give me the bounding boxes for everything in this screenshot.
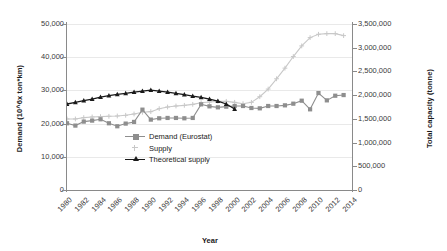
series-marker	[266, 104, 270, 108]
legend-label: Theoretical supply	[149, 155, 210, 164]
series-marker	[174, 104, 179, 109]
series-marker	[308, 107, 312, 111]
legend-swatch-icon	[125, 144, 145, 153]
series-marker	[148, 109, 153, 114]
series-marker	[67, 117, 69, 122]
y-tick-label-left: 30,000	[41, 85, 64, 95]
series-marker	[107, 121, 111, 125]
chart-legend: Demand (Eurostat)SupplyTheoretical suppl…	[125, 131, 212, 166]
series-marker	[98, 117, 102, 121]
y-tick-label-left: 20,000	[41, 119, 64, 129]
series-marker	[115, 124, 119, 128]
series-marker	[174, 116, 178, 120]
series-marker	[90, 119, 94, 123]
series-marker	[123, 113, 128, 118]
series-marker	[81, 115, 86, 120]
series-marker	[190, 102, 195, 107]
y-tick-mark-right	[353, 48, 357, 49]
series-marker	[274, 104, 278, 108]
chart-figure: Demand (10^6x ton*km) Total capacity (to…	[0, 0, 447, 251]
series-marker	[341, 33, 346, 38]
series-marker	[316, 32, 321, 37]
y-tick-label-left: 10,000	[41, 152, 64, 162]
series-marker	[249, 106, 253, 110]
series-marker	[149, 118, 153, 122]
legend-swatch-icon	[125, 155, 145, 164]
x-axis-line	[66, 190, 353, 191]
series-marker	[73, 117, 78, 122]
y-tick-mark-right	[353, 95, 357, 96]
y-tick-label-left: 40,000	[41, 52, 64, 62]
y-tick-label-right: 2,500,000	[358, 66, 391, 76]
series-marker	[216, 105, 220, 109]
y-tick-label-right: 1,000,000	[358, 138, 391, 148]
series-marker	[241, 104, 245, 108]
y-tick-label-right: 500,000	[358, 161, 385, 171]
series-marker	[157, 116, 161, 120]
y-tick-mark-left	[62, 90, 66, 91]
series-marker	[73, 123, 77, 127]
y-tick-mark-right	[353, 24, 357, 25]
series-marker	[199, 102, 203, 106]
series-marker	[182, 103, 187, 108]
y-tick-label-left: 50,000	[41, 19, 64, 29]
series-marker	[283, 103, 287, 107]
legend-item: Theoretical supply	[125, 154, 212, 165]
series-marker	[291, 102, 295, 106]
series-marker	[107, 114, 112, 119]
series-marker	[182, 116, 186, 120]
series-marker	[157, 106, 162, 111]
y-tick-mark-left	[62, 24, 66, 25]
series-marker	[165, 105, 170, 110]
y-tick-mark-left	[62, 190, 66, 191]
legend-label: Supply	[149, 144, 172, 153]
y-tick-mark-left	[62, 157, 66, 158]
series-marker	[325, 98, 329, 102]
y-tick-mark-right	[353, 71, 357, 72]
y-axis-label-right: Total capacity (tonne)	[425, 49, 434, 169]
series-marker	[165, 116, 169, 120]
legend-swatch-icon	[125, 132, 145, 141]
y-tick-label-right: 0	[358, 185, 362, 195]
series-marker	[82, 120, 86, 124]
y-tick-mark-left	[62, 124, 66, 125]
y-tick-mark-right	[353, 190, 357, 191]
series-marker	[132, 112, 137, 117]
y-tick-mark-right	[353, 166, 357, 167]
y-tick-label-right: 1,500,000	[358, 114, 391, 124]
y-tick-label-right: 2,000,000	[358, 90, 391, 100]
series-marker	[316, 91, 320, 95]
y-tick-mark-right	[353, 119, 357, 120]
series-marker	[191, 116, 195, 120]
series-marker	[300, 99, 304, 103]
series-marker	[124, 122, 128, 126]
legend-label: Demand (Eurostat)	[149, 132, 212, 141]
series-marker	[140, 108, 144, 112]
series-marker	[67, 121, 69, 125]
y-tick-mark-left	[62, 57, 66, 58]
series-marker	[207, 104, 211, 108]
series-marker	[324, 31, 329, 36]
series-marker	[115, 114, 120, 119]
series-marker	[333, 94, 337, 98]
series-marker	[132, 120, 136, 124]
legend-item: Supply	[125, 143, 212, 154]
series-marker	[258, 106, 262, 110]
y-tick-label-right: 3,000,000	[358, 43, 391, 53]
y-tick-mark-right	[353, 143, 357, 144]
legend-item: Demand (Eurostat)	[125, 131, 212, 142]
series-marker	[342, 93, 346, 97]
series-marker	[333, 31, 338, 36]
y-axis-label-left: Demand (10^6x ton*km)	[15, 49, 24, 169]
y-tick-label-right: 3,500,000	[358, 19, 391, 29]
